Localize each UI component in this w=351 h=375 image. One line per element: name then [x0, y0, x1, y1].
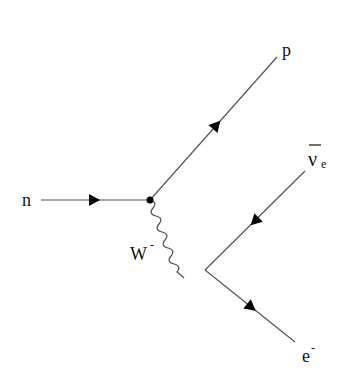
diagram-svg: n p W - ν e e - [0, 0, 351, 375]
w-boson-label: W [130, 244, 147, 264]
feynman-diagram: n p W - ν e e - [0, 0, 351, 375]
antineutrino-subscript: e [321, 157, 326, 171]
electron-arrow-icon [243, 299, 259, 315]
vertex-dot [147, 197, 154, 204]
electron-charge: - [311, 341, 315, 355]
w-boson-charge: - [150, 238, 154, 252]
neutron-arrow-icon [89, 194, 100, 206]
w-boson-wavy-line [150, 200, 184, 278]
proton-label: p [282, 40, 291, 60]
electron-label: e [302, 346, 310, 366]
neutron-label: n [22, 190, 31, 210]
antineutrino-label: ν [308, 148, 317, 170]
